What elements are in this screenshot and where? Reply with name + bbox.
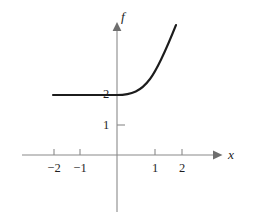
graph-canvas bbox=[0, 0, 258, 212]
x-tick-label-1: 1 bbox=[148, 162, 162, 175]
x-axis-label: x bbox=[228, 148, 234, 162]
x-axis-arrowhead bbox=[213, 151, 223, 160]
y-tick-label-1: 1 bbox=[99, 119, 113, 132]
y-axis-label: f bbox=[121, 10, 125, 24]
x-tick-label-2: 2 bbox=[175, 162, 189, 175]
function-curve bbox=[53, 25, 176, 95]
x-tick-label-minus1: −1 bbox=[70, 162, 90, 175]
function-graph-figure: −2 −1 1 2 2 1 f x bbox=[0, 0, 258, 212]
y-tick-label-2: 2 bbox=[99, 88, 113, 101]
x-tick-label-minus2: −2 bbox=[44, 162, 64, 175]
